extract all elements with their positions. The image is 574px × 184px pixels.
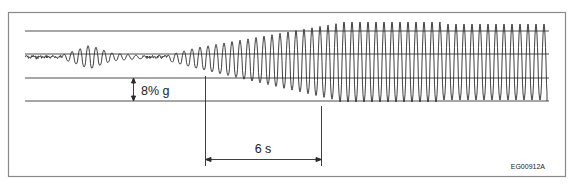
amplitude-label: 8% g: [141, 84, 170, 98]
time-label: 6 s: [255, 142, 272, 156]
vibration-diagram: 8% g 6 s EG00912A: [0, 0, 574, 184]
figure-id-label: EG00912A: [511, 163, 546, 170]
